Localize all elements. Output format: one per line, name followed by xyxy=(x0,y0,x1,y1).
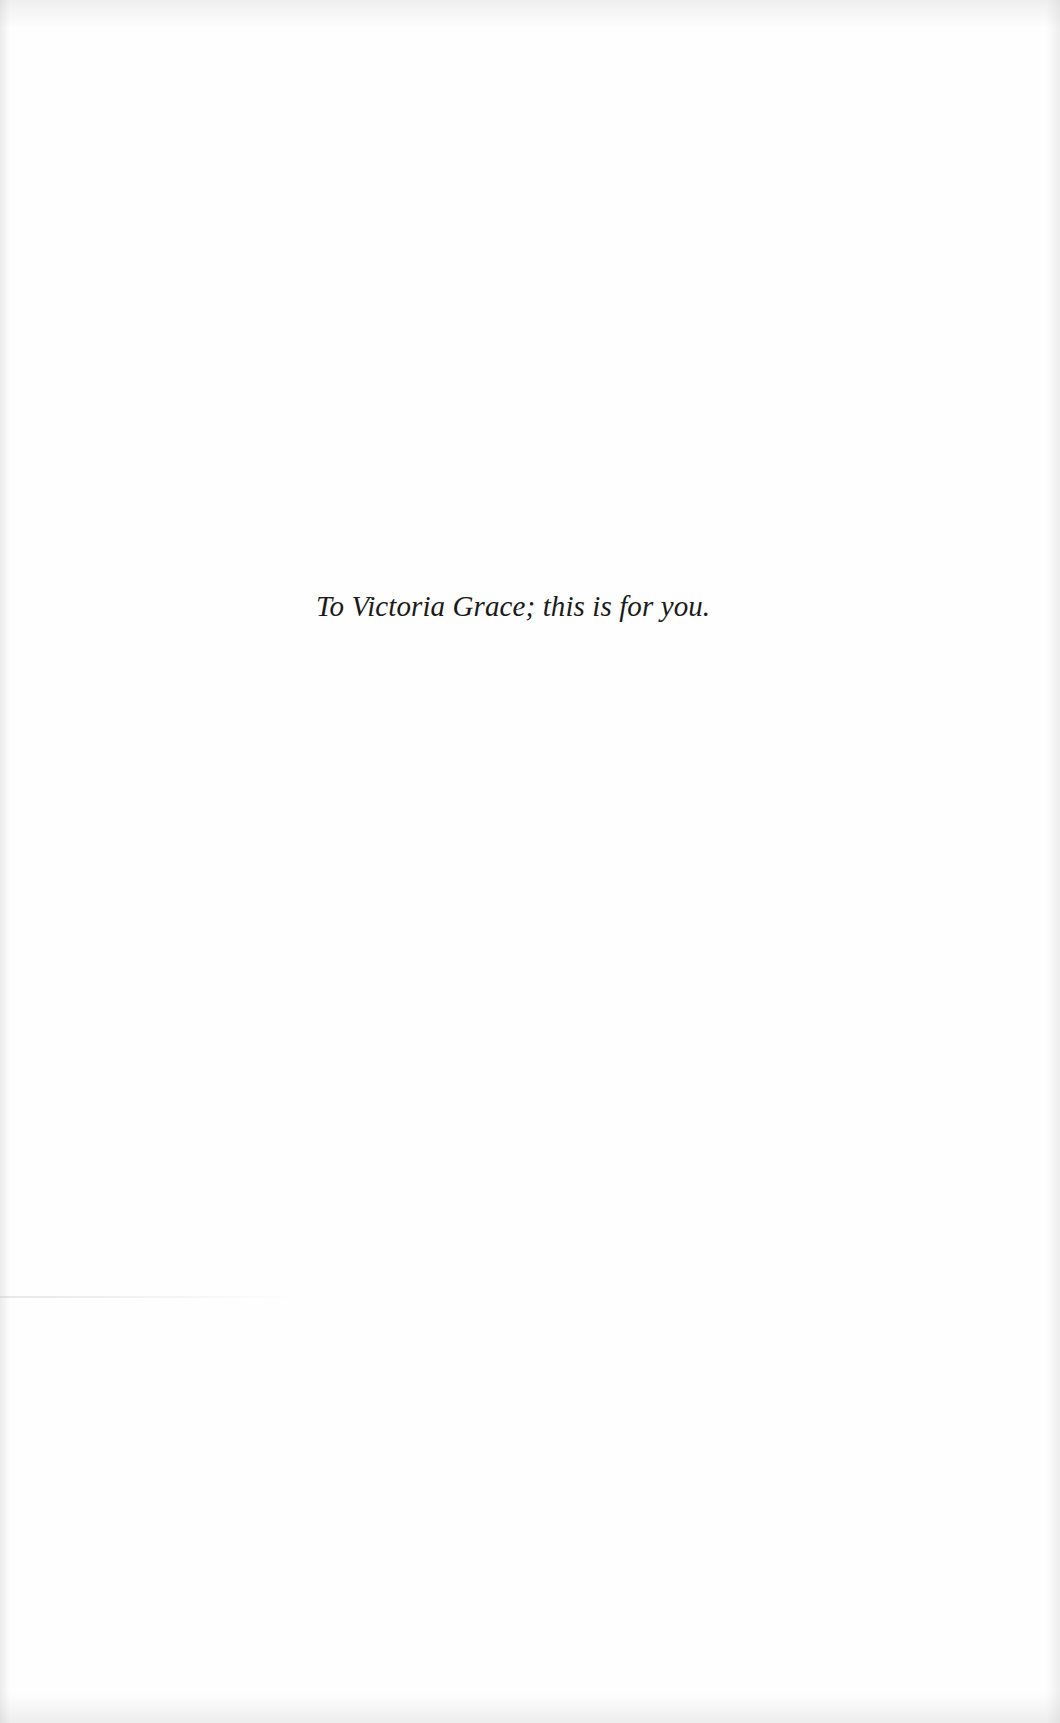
scan-edge-right xyxy=(1046,0,1060,1723)
book-page: To Victoria Grace; this is for you. xyxy=(0,0,1060,1723)
scan-edge-left xyxy=(0,0,10,1723)
scan-edge-top xyxy=(0,0,1060,28)
dedication-text: To Victoria Grace; this is for you. xyxy=(316,588,696,624)
scan-edge-bottom xyxy=(0,1693,1060,1723)
scan-artifact-line xyxy=(0,1296,300,1298)
